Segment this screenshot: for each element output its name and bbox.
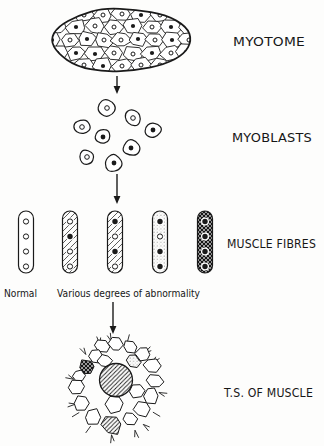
caption-abnormal: Various degrees of abnormality xyxy=(57,287,200,299)
ts-cell xyxy=(124,341,137,353)
myotome-cell xyxy=(47,20,66,34)
label-myotome: MYOTOME xyxy=(233,35,305,49)
open-nucleus xyxy=(23,234,28,239)
ts-cell xyxy=(101,417,121,435)
open-nucleus xyxy=(112,25,116,29)
filled-nucleus xyxy=(157,249,162,254)
ts-cell xyxy=(80,360,94,374)
open-nucleus xyxy=(112,234,117,239)
ts-muscle-illustration xyxy=(65,333,167,443)
open-nucleus xyxy=(67,264,72,269)
ts-cell xyxy=(86,409,101,425)
open-nucleus xyxy=(23,249,28,254)
arrow-head xyxy=(110,326,117,334)
filled-nucleus xyxy=(93,52,97,56)
myotome-cells xyxy=(42,7,199,74)
myotome-illustration xyxy=(42,7,199,74)
muscle-fibre xyxy=(108,211,123,273)
ts-cell xyxy=(68,380,84,394)
open-nucleus xyxy=(102,38,106,42)
filled-nucleus xyxy=(85,37,89,41)
filled-nucleus xyxy=(129,146,134,151)
filled-nucleus xyxy=(101,135,106,140)
open-nucleus xyxy=(67,219,72,224)
filled-nucleus xyxy=(202,249,207,254)
label-myoblasts: MYOBLASTS xyxy=(232,131,312,145)
filled-nucleus xyxy=(202,264,207,269)
filled-nucleus xyxy=(151,128,156,133)
open-nucleus xyxy=(153,38,157,42)
open-nucleus xyxy=(169,51,173,55)
ts-whisker xyxy=(86,426,91,433)
open-nucleus xyxy=(105,106,110,111)
open-nucleus xyxy=(80,125,85,130)
open-nucleus xyxy=(101,13,105,17)
caption-normal: Normal xyxy=(4,287,37,299)
ts-cell xyxy=(133,402,150,417)
filled-nucleus xyxy=(157,219,162,224)
ts-whisker xyxy=(153,412,160,416)
open-nucleus xyxy=(67,249,72,254)
ts-cell xyxy=(146,375,164,387)
ts-cell xyxy=(74,396,89,410)
open-nucleus xyxy=(131,116,136,121)
filled-nucleus xyxy=(74,51,78,55)
filled-nucleus xyxy=(169,25,173,29)
filled-nucleus xyxy=(74,25,78,29)
ts-whisker xyxy=(135,430,139,438)
arrow-head xyxy=(114,196,121,204)
open-nucleus xyxy=(150,25,154,29)
filled-nucleus xyxy=(150,51,154,55)
open-nucleus xyxy=(112,264,117,269)
open-nucleus xyxy=(120,64,124,68)
filled-nucleus xyxy=(112,219,117,224)
muscle-development-diagram: MYOTOME MYOBLASTS MUSCLE FIBRES T.S. OF … xyxy=(0,0,324,446)
label-ts-of-muscle: T.S. OF MUSCLE xyxy=(223,386,313,400)
open-nucleus xyxy=(112,51,116,55)
ts-cell xyxy=(105,396,123,413)
ts-cell xyxy=(100,364,133,397)
muscle-fibre xyxy=(63,211,78,273)
filled-nucleus xyxy=(157,264,162,269)
diagram-canvas: MYOTOME MYOBLASTS MUSCLE FIBRES T.S. OF … xyxy=(0,0,324,446)
filled-nucleus xyxy=(136,37,140,41)
ts-cell xyxy=(144,388,159,404)
ts-whisker xyxy=(112,435,115,441)
open-nucleus xyxy=(23,219,28,224)
filled-nucleus xyxy=(112,249,117,254)
ts-cell xyxy=(123,413,138,425)
arrow-head xyxy=(114,86,121,94)
muscle-fibre xyxy=(153,211,168,273)
filled-nucleus xyxy=(202,219,207,224)
myoblasts-illustration xyxy=(74,100,161,172)
filled-nucleus xyxy=(170,38,174,42)
muscle-fibre xyxy=(19,211,34,273)
myotome-cell xyxy=(42,33,60,48)
ts-whisker xyxy=(72,412,79,416)
filled-nucleus xyxy=(131,24,135,28)
open-nucleus xyxy=(131,52,135,56)
filled-nucleus xyxy=(112,161,117,166)
open-nucleus xyxy=(119,38,123,42)
filled-nucleus xyxy=(202,234,207,239)
ts-cell xyxy=(108,337,123,350)
ts-whisker xyxy=(111,435,112,443)
muscle-fibres-illustration xyxy=(19,211,213,273)
ts-cell xyxy=(143,359,161,372)
filled-nucleus xyxy=(101,64,105,68)
open-nucleus xyxy=(120,12,124,16)
label-muscle-fibres: MUSCLE FIBRES xyxy=(227,237,316,251)
open-nucleus xyxy=(23,264,28,269)
open-nucleus xyxy=(93,24,97,28)
filled-nucleus xyxy=(139,13,143,17)
open-nucleus xyxy=(157,234,162,239)
open-nucleus xyxy=(139,63,143,67)
muscle-fibre xyxy=(198,211,213,273)
open-nucleus xyxy=(68,38,72,42)
open-nucleus xyxy=(85,155,90,160)
filled-nucleus xyxy=(67,234,72,239)
